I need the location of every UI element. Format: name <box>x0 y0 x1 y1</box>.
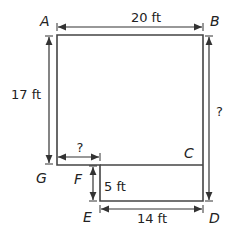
point-e: E <box>83 209 92 225</box>
label-left: 17 ft <box>11 87 41 102</box>
label-bottom-left: ? <box>77 140 84 155</box>
point-b: B <box>210 13 220 29</box>
label-right: ? <box>216 104 223 119</box>
point-g: G <box>36 170 47 186</box>
point-d: D <box>209 210 220 226</box>
label-step: 5 ft <box>104 179 126 194</box>
point-c: C <box>184 145 194 161</box>
point-a: A <box>39 13 50 29</box>
point-f: F <box>74 171 83 187</box>
label-bottom: 14 ft <box>137 211 167 226</box>
composite-shape-diagram: 20 ft 17 ft ? ? 5 ft 14 ft A B C D E F G <box>0 0 232 237</box>
label-top: 20 ft <box>131 10 161 25</box>
